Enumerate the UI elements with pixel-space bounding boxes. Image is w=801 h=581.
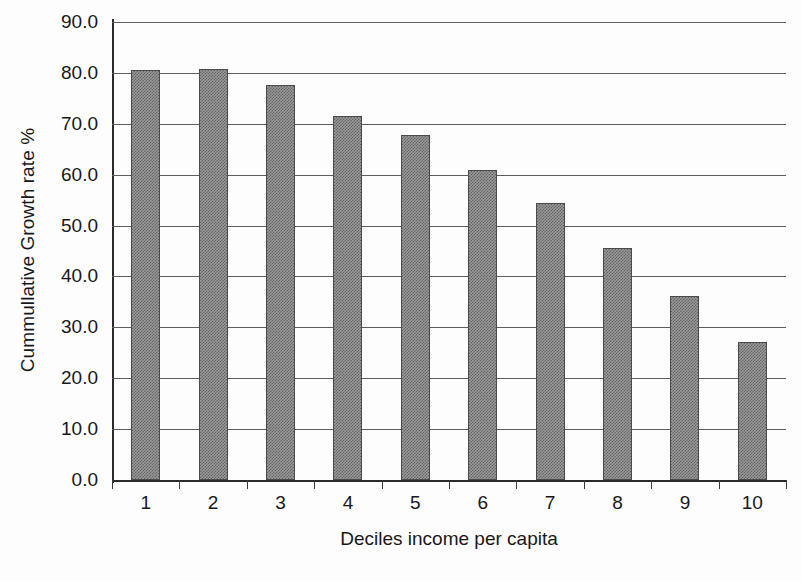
x-axis-tick-mark xyxy=(449,480,450,489)
x-axis-tick-mark xyxy=(112,480,113,489)
y-axis-tick-label: 50.0 xyxy=(61,215,98,237)
x-axis-tick-label: 5 xyxy=(382,492,449,522)
y-axis-tick-label: 0.0 xyxy=(72,469,98,491)
x-axis-tick-label: 6 xyxy=(449,492,516,522)
x-axis-tick-label: 9 xyxy=(651,492,718,522)
y-axis-tick-labels: 90.080.070.060.050.040.030.020.010.00.0 xyxy=(44,0,106,581)
x-axis-tick-mark xyxy=(786,480,787,489)
y-axis-tick-label: 70.0 xyxy=(61,113,98,135)
y-axis-tick-label: 80.0 xyxy=(61,62,98,84)
x-axis-tick-label: 4 xyxy=(314,492,381,522)
bar-slot xyxy=(314,22,381,480)
bar-slot xyxy=(516,22,583,480)
x-axis-tick-mark xyxy=(651,480,652,489)
x-axis-tick-label: 10 xyxy=(719,492,786,522)
x-axis-tick-mark xyxy=(719,480,720,489)
x-axis-tick-mark xyxy=(179,480,180,489)
y-axis-tick-label: 10.0 xyxy=(61,418,98,440)
bar[interactable] xyxy=(603,248,632,480)
bar[interactable] xyxy=(468,170,497,480)
x-axis-tick-label: 3 xyxy=(247,492,314,522)
bar[interactable] xyxy=(401,135,430,480)
bar[interactable] xyxy=(333,116,362,480)
bar-slot xyxy=(179,22,246,480)
bar-slot xyxy=(449,22,516,480)
bar[interactable] xyxy=(738,342,767,480)
y-axis-tick-label: 40.0 xyxy=(61,265,98,287)
y-axis-tick-label: 90.0 xyxy=(61,11,98,33)
x-axis-tick-labels: 12345678910 xyxy=(112,492,786,522)
bar[interactable] xyxy=(536,203,565,480)
bar-slot xyxy=(382,22,449,480)
x-axis-tick-mark xyxy=(247,480,248,489)
x-axis-tick-mark xyxy=(516,480,517,489)
x-axis-tick-mark xyxy=(584,480,585,489)
bar-slot xyxy=(247,22,314,480)
x-axis-tick-label: 8 xyxy=(584,492,651,522)
y-axis-tick-label: 20.0 xyxy=(61,367,98,389)
bar[interactable] xyxy=(131,70,160,480)
x-axis-tick-marks xyxy=(112,480,786,489)
bar-slot xyxy=(719,22,786,480)
x-axis-tick-label: 2 xyxy=(179,492,246,522)
plot-area xyxy=(112,22,786,480)
bar-series xyxy=(112,22,786,480)
x-axis-tick-label: 7 xyxy=(516,492,583,522)
bar-slot xyxy=(584,22,651,480)
x-axis-tick-mark xyxy=(314,480,315,489)
bar[interactable] xyxy=(266,85,295,480)
y-axis-title: Cummullative Growth rate % xyxy=(8,0,48,500)
x-axis-title: Deciles income per capita xyxy=(112,528,786,550)
y-axis-title-text: Cummullative Growth rate % xyxy=(17,128,39,372)
bar-slot xyxy=(112,22,179,480)
y-axis-tick-label: 30.0 xyxy=(61,316,98,338)
bar-slot xyxy=(651,22,718,480)
bar-chart-figure: Cummullative Growth rate % 90.080.070.06… xyxy=(0,0,801,581)
x-axis-tick-label: 1 xyxy=(112,492,179,522)
bar[interactable] xyxy=(670,296,699,480)
y-axis-tick-label: 60.0 xyxy=(61,164,98,186)
bar[interactable] xyxy=(199,69,228,480)
x-axis-tick-mark xyxy=(382,480,383,489)
